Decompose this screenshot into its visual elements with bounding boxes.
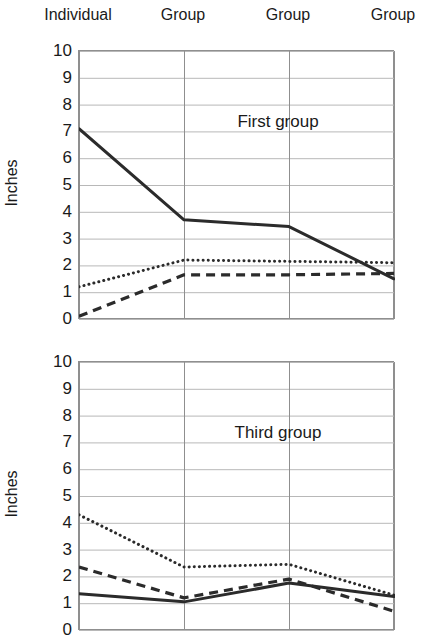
chart2-annotation: Third group — [235, 423, 322, 443]
y-tick-chart1-0: 0 — [63, 310, 72, 327]
y-tick-chart2-6: 6 — [63, 460, 72, 477]
y-tick-chart1-2: 2 — [63, 256, 72, 273]
y-tick-chart1-7: 7 — [63, 122, 72, 139]
y-tick-chart1-10: 10 — [53, 42, 72, 59]
chart-third-group: Inches 109876543210 Third group — [0, 340, 423, 631]
y-tick-chart2-3: 3 — [63, 540, 72, 557]
y-tick-chart2-8: 8 — [63, 406, 72, 423]
series-chart1-solid — [79, 129, 394, 279]
plot-area-chart2 — [78, 361, 394, 630]
y-axis-ticks-chart2: 109876543210 — [36, 340, 72, 631]
y-tick-chart2-10: 10 — [53, 353, 72, 370]
y-axis-label-chart2: Inches — [3, 464, 21, 524]
y-tick-chart1-1: 1 — [63, 283, 72, 300]
y-tick-chart2-4: 4 — [63, 513, 72, 530]
y-tick-chart1-4: 4 — [63, 202, 72, 219]
plot-svg-chart1 — [79, 51, 395, 320]
chart-first-group: Inches 109876543210 First group — [0, 30, 423, 330]
y-tick-chart2-5: 5 — [63, 487, 72, 504]
top-category-label-3: Group — [371, 4, 415, 26]
series-chart2-solid — [79, 583, 394, 602]
plot-svg-chart2 — [79, 362, 395, 631]
top-category-labels: IndividualGroupGroupGroup — [0, 4, 423, 30]
y-tick-chart2-9: 9 — [63, 379, 72, 396]
top-category-label-0: Individual — [44, 4, 112, 26]
y-tick-chart1-5: 5 — [63, 176, 72, 193]
y-tick-chart2-2: 2 — [63, 567, 72, 584]
series-chart1-dashed — [79, 273, 394, 316]
top-category-label-2: Group — [266, 4, 310, 26]
top-category-label-1: Group — [161, 4, 205, 26]
y-axis-ticks-chart1: 109876543210 — [36, 30, 72, 330]
y-tick-chart2-1: 1 — [63, 594, 72, 611]
y-axis-label-chart1: Inches — [3, 153, 21, 213]
y-tick-chart2-7: 7 — [63, 433, 72, 450]
y-tick-chart1-6: 6 — [63, 149, 72, 166]
y-tick-chart1-8: 8 — [63, 95, 72, 112]
y-tick-chart2-0: 0 — [63, 621, 72, 638]
chart1-annotation: First group — [237, 112, 318, 132]
y-tick-chart1-9: 9 — [63, 68, 72, 85]
plot-area-chart1 — [78, 50, 394, 319]
series-chart2-dotted — [79, 515, 394, 595]
y-tick-chart1-3: 3 — [63, 229, 72, 246]
